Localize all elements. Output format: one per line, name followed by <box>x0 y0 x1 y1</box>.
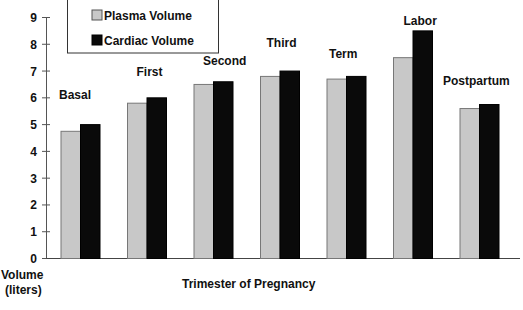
bar-cardiac-term <box>347 76 367 258</box>
bar-cardiac-second <box>214 82 234 259</box>
y-axis-title-line1: Volume <box>1 268 44 282</box>
bar-cardiac-basal <box>81 125 101 259</box>
category-label-third: Third <box>267 36 297 50</box>
bar-plasma-term <box>327 79 347 258</box>
category-label-postpartum: Postpartum <box>443 74 510 88</box>
legend-label-plasma: Plasma Volume <box>104 9 192 23</box>
legend-item-plasma: Plasma Volume <box>92 9 192 23</box>
legend-item-cardiac: Cardiac Volume <box>92 34 194 48</box>
y-tick-label: 2 <box>30 198 37 212</box>
category-label-first: First <box>137 65 163 79</box>
bar-plasma-labor <box>394 58 414 259</box>
legend: Plasma Volume Cardiac Volume <box>68 0 219 53</box>
bar-plasma-second <box>194 84 214 258</box>
bar-group-term <box>327 76 366 258</box>
bar-cardiac-third <box>280 71 300 258</box>
legend-swatch-plasma <box>92 10 102 20</box>
y-tick-label: 0 <box>30 252 37 266</box>
bar-cardiac-first <box>147 98 167 259</box>
bar-cardiac-labor <box>413 31 433 259</box>
bar-group-basal <box>61 125 100 259</box>
bar-group-second <box>194 82 233 259</box>
bar-group-first <box>128 98 167 259</box>
y-tick-label: 3 <box>30 172 37 186</box>
bar-cardiac-postpartum <box>480 105 500 259</box>
y-axis-title-line2: (liters) <box>5 283 42 297</box>
category-label-basal: Basal <box>59 88 91 102</box>
category-label-labor: Labor <box>404 14 438 28</box>
y-axis: 0123456789 <box>30 11 50 266</box>
category-label-term: Term <box>329 47 357 61</box>
y-tick-label: 1 <box>30 225 37 239</box>
bar-plasma-third <box>261 76 281 258</box>
y-tick-label: 5 <box>30 118 37 132</box>
bar-chart: Plasma Volume Cardiac Volume 0123456789 … <box>0 0 523 310</box>
y-tick-label: 6 <box>30 91 37 105</box>
bars <box>61 31 499 259</box>
bar-group-postpartum <box>460 105 499 259</box>
y-tick-label: 8 <box>30 38 37 52</box>
y-tick-label: 7 <box>30 65 37 79</box>
bar-group-labor <box>394 31 433 259</box>
y-tick-label: 9 <box>30 11 37 25</box>
y-tick-label: 4 <box>30 145 37 159</box>
bar-plasma-first <box>128 103 148 258</box>
bar-plasma-postpartum <box>460 109 480 259</box>
category-label-second: Second <box>203 54 246 68</box>
x-axis-title: Trimester of Pregnancy <box>182 277 316 291</box>
legend-swatch-cardiac <box>92 35 102 45</box>
bar-group-third <box>261 71 300 258</box>
bar-plasma-basal <box>61 131 81 258</box>
legend-label-cardiac: Cardiac Volume <box>104 34 194 48</box>
